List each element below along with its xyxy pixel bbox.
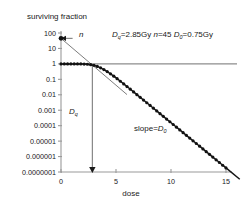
data-point-marker [205, 150, 208, 153]
data-point-marker [86, 63, 89, 66]
y-tick-label: 10 [48, 44, 56, 53]
x-tick-label: 5 [114, 177, 118, 186]
y-tick-label: 0.000001 [26, 152, 56, 161]
param-dq-value: =2.85Gy [121, 30, 151, 39]
data-point-marker [132, 90, 135, 93]
data-point-marker [73, 62, 76, 65]
y-tick-label: 100 [44, 29, 56, 38]
data-point-marker [83, 62, 86, 65]
data-point-marker [182, 131, 185, 134]
data-point-marker [165, 117, 168, 120]
slope-label-subscript: 0 [164, 128, 167, 134]
y-axis-ticks: 1001010.10.010.0010.00010.000010.0000010… [22, 29, 62, 177]
data-point-marker [162, 115, 165, 118]
data-point-marker [116, 77, 119, 80]
y-tick-label: 1 [52, 59, 56, 68]
data-point-marker [172, 123, 175, 126]
data-point-marker [125, 85, 128, 88]
y-tick-label: 0.001 [38, 106, 56, 115]
data-point-marker [185, 134, 188, 137]
data-point-marker [69, 62, 72, 65]
data-point-marker [175, 126, 178, 129]
data-point-marker [99, 66, 102, 69]
y-tick-label: 0.0000001 [22, 168, 56, 177]
data-point-marker [66, 62, 69, 65]
data-point-marker [198, 145, 201, 148]
data-point-marker [191, 139, 194, 142]
survival-curve-line [61, 64, 240, 179]
param-d0-value: =0.75Gy [183, 30, 213, 39]
data-point-marker [79, 62, 82, 65]
data-point-marker [109, 72, 112, 75]
data-point-marker [129, 88, 132, 91]
data-point-marker [188, 136, 191, 139]
data-point-marker [102, 68, 105, 71]
dq-label: Dq [69, 107, 78, 117]
slope-label-prefix: slope= [134, 124, 158, 133]
param-n-value: =45 [158, 30, 172, 39]
data-point-marker [152, 107, 155, 110]
survival-curve-svg: surviving fraction 1001010.10.010.0010.0… [0, 0, 251, 204]
data-point-marker [211, 155, 214, 158]
y-tick-label: 0.00001 [30, 137, 56, 146]
data-point-marker [76, 62, 79, 65]
data-point-marker [112, 75, 115, 78]
data-point-marker [155, 109, 158, 112]
data-point-marker [201, 147, 204, 150]
n-label: n [79, 30, 84, 39]
data-point-marker [215, 158, 218, 161]
data-point-marker [142, 98, 145, 101]
data-point-marker [59, 62, 62, 65]
data-point-marker [158, 112, 161, 115]
dq-label-subscript: q [75, 111, 78, 117]
data-point-marker [221, 164, 224, 167]
x-tick-label: 10 [167, 177, 175, 186]
x-axis-title: dose [122, 189, 140, 198]
x-tick-label: 0 [59, 177, 63, 186]
data-point-marker [89, 63, 92, 66]
y-tick-label: 0.0001 [34, 121, 56, 130]
survival-data-markers [59, 36, 228, 169]
data-point-marker [135, 93, 138, 96]
data-point-marker [208, 153, 211, 156]
x-tick-label: 15 [222, 177, 230, 186]
data-point-marker [168, 120, 171, 123]
y-axis-title: surviving fraction [27, 12, 87, 21]
y-tick-label: 0.1 [46, 75, 56, 84]
data-point-marker [122, 82, 125, 85]
data-point-marker [178, 128, 181, 131]
data-point-marker [224, 166, 227, 169]
svg-text:Dq=2.85Gy n=45 D0=0.75Gy: Dq=2.85Gy n=45 D0=0.75Gy [112, 30, 213, 40]
y-tick-label: 0.01 [42, 90, 56, 99]
slope-label: slope=D0 [134, 124, 167, 134]
cell-survival-curve-figure: surviving fraction 1001010.10.010.0010.0… [0, 0, 251, 204]
data-point-marker [119, 80, 122, 83]
data-point-marker [63, 62, 66, 65]
data-point-marker [218, 161, 221, 164]
data-point-marker [96, 65, 99, 68]
data-point-marker [106, 70, 109, 73]
data-point-marker [195, 142, 198, 145]
data-point-marker [149, 104, 152, 107]
extrapolation-intercept-marker [59, 36, 64, 41]
data-point-marker [145, 101, 148, 104]
data-point-marker [139, 96, 142, 99]
parameters-annotation: Dq=2.85Gy n=45 D0=0.75Gy [112, 30, 213, 40]
data-point-marker [92, 64, 95, 67]
